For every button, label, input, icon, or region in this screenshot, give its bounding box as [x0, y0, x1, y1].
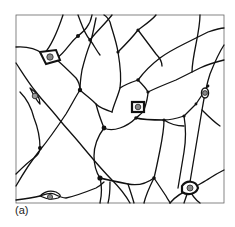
- nucleus-4: [202, 88, 209, 98]
- nucleus-2: [32, 93, 38, 99]
- nucleus-3: [132, 102, 144, 112]
- cell-boundaries: [16, 15, 224, 203]
- nucleus-6: [182, 182, 198, 194]
- figure-frame: [16, 15, 224, 203]
- nucleus-5: [47, 194, 52, 199]
- nucleus-1: [40, 50, 60, 64]
- cell-network-diagram: [0, 0, 235, 227]
- panel-label: (a): [15, 204, 28, 216]
